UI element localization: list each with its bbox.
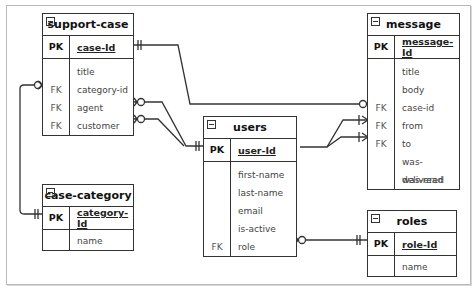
field-list: name [368,256,456,276]
pk-field: case-Id [70,42,115,53]
field-name: agent [77,99,128,117]
field-key [368,153,394,171]
field-key [368,81,394,99]
pk-label: PK [43,36,70,58]
entity-header: message [368,14,459,36]
field-list: name [43,230,133,250]
relationship-category-case [20,81,42,219]
entity-title: support-case [48,18,129,31]
field-name: is-active [238,220,284,238]
field-key [204,184,230,202]
field-name: was-delivered [402,153,459,171]
field-name: title [402,63,459,81]
field-name: name [77,232,103,250]
entity-users[interactable]: users PK user-Id FK first-name last-name… [203,116,297,257]
field-name: last-name [238,184,284,202]
field-name: was-read [402,171,459,189]
pk-label: PK [368,36,395,58]
entity-title: users [233,121,267,134]
entity-title: roles [397,215,428,228]
entity-roles[interactable]: roles PK role-Id name [367,210,457,277]
pk-label: PK [368,233,395,255]
pk-label: PK [43,207,70,229]
field-key [368,258,394,276]
entity-header: roles [368,211,456,233]
field-key: FK [368,135,394,153]
field-name: body [402,81,459,99]
relationship-roles-users [295,235,367,245]
field-name: to [402,135,459,153]
field-name: title [77,63,128,81]
entity-message[interactable]: message PK message-Id FK FK FK title bod… [367,13,460,190]
collapse-icon[interactable] [371,17,380,26]
field-key: FK [43,81,69,99]
field-key [43,232,69,250]
field-key [368,171,394,189]
relationship-users-agent [134,98,204,146]
collapse-icon[interactable] [207,120,216,129]
pk-field: message-Id [395,36,459,58]
field-key [43,63,69,81]
relationship-users-message [300,115,368,147]
field-key: FK [368,99,394,117]
field-key [368,63,394,81]
field-name: customer [77,117,128,135]
pk-field: category-Id [70,207,133,229]
primary-key-row: PK category-Id [43,207,133,230]
field-list: FK first-name last-name email is-active … [204,162,296,256]
field-key: FK [43,117,69,135]
field-name: category-id [77,81,128,99]
primary-key-row: PK message-Id [368,36,459,59]
field-name: role [238,238,284,256]
primary-key-row: PK case-Id [43,36,133,59]
field-name: case-id [402,99,459,117]
entity-header: support-case [43,14,133,36]
entity-header: case-category [43,185,133,207]
field-name: from [402,117,459,135]
entity-case-category[interactable]: case-category PK category-Id name [42,184,134,251]
primary-key-row: PK role-Id [368,233,456,256]
field-key [204,166,230,184]
field-name: email [238,202,284,220]
field-key: FK [368,117,394,135]
pk-field: role-Id [395,239,437,250]
pk-label: PK [204,139,231,161]
field-key: FK [43,99,69,117]
collapse-icon[interactable] [371,214,380,223]
relationship-case-message [134,40,371,108]
field-key [204,202,230,220]
field-list: FK FK FK title body case-id from to was-… [368,59,459,189]
entity-title: message [386,18,441,31]
collapse-icon[interactable] [46,188,55,197]
field-name: first-name [238,166,284,184]
field-name: name [402,258,428,276]
field-list: FK FK FK title category-id agent custome… [43,59,133,135]
field-key: FK [204,238,230,256]
field-key [204,220,230,238]
primary-key-row: PK user-Id [204,139,296,162]
pk-field: user-Id [231,145,276,156]
entity-title: case-category [44,189,131,202]
entity-support-case[interactable]: support-case PK case-Id FK FK FK title c… [42,13,134,136]
collapse-icon[interactable] [46,17,55,26]
entity-header: users [204,117,296,139]
